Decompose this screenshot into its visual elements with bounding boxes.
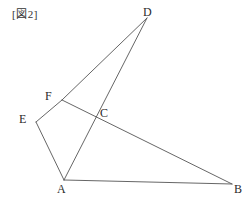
vertex-label-b: B	[234, 183, 242, 195]
geometry-figure: [図2] DFECAB	[0, 0, 252, 202]
segment-layer	[36, 18, 232, 184]
vertex-label-e: E	[19, 113, 26, 125]
vertex-label-c: C	[100, 107, 108, 119]
segment-da	[64, 18, 147, 180]
segment-fb	[62, 100, 232, 184]
vertex-label-d: D	[143, 6, 152, 18]
segment-ea	[36, 122, 64, 180]
segment-ab	[64, 180, 232, 184]
vertex-label-f: F	[45, 90, 52, 102]
vertex-label-a: A	[57, 183, 66, 195]
segment-df	[62, 18, 147, 100]
segment-ef	[36, 100, 62, 122]
geometry-diagram-svg	[0, 0, 252, 202]
